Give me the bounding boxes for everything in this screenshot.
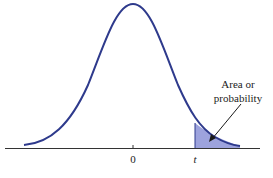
t-label: t <box>193 153 197 165</box>
density-curve <box>24 4 240 146</box>
annotation-line-2: probability <box>214 92 263 104</box>
annotation-line-1: Area or <box>221 78 255 90</box>
zero-label: 0 <box>130 153 136 165</box>
t-distribution-diagram: 0 t Area or probability <box>0 0 273 178</box>
annotation-arrow <box>212 104 241 139</box>
